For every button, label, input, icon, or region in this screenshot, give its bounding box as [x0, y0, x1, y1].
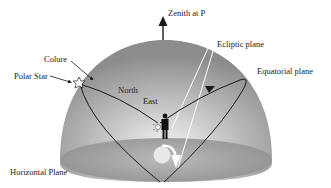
colure-label: Colure: [44, 54, 67, 64]
east-label: East: [143, 96, 158, 106]
polar-star-label: Polar Star: [14, 71, 48, 81]
horizontal-plane-label: Horizontal Plane: [10, 167, 68, 177]
zenith-label: Zenith at P: [168, 8, 206, 18]
ecliptic-plane-label: Ecliptic plane: [217, 39, 264, 49]
zenith-arrow: [159, 16, 168, 40]
north-label: North: [118, 85, 139, 95]
celestial-sphere-diagram: Zenith at P Ecliptic plane Equatorial pl…: [0, 0, 331, 188]
equatorial-plane-label: Equatorial plane: [257, 66, 313, 76]
